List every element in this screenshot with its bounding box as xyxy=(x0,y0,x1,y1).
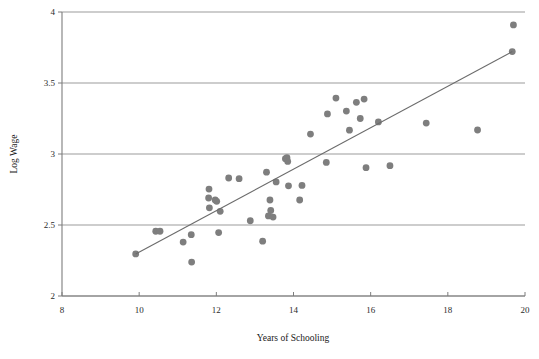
data-point xyxy=(284,158,291,165)
x-axis-title: Years of Schooling xyxy=(257,333,330,343)
data-point xyxy=(357,115,364,122)
y-tick-label: 4 xyxy=(51,7,56,17)
y-axis-title: Log Wage xyxy=(9,135,19,174)
data-point xyxy=(299,182,306,189)
data-points-group xyxy=(132,22,517,266)
data-point xyxy=(323,159,330,166)
data-point xyxy=(343,108,350,115)
data-point xyxy=(509,48,516,55)
x-tick-label: 16 xyxy=(366,305,376,315)
data-point xyxy=(188,231,195,238)
data-point xyxy=(205,195,212,202)
y-tick-label: 2.5 xyxy=(44,220,56,230)
x-tick-label: 14 xyxy=(289,305,299,315)
data-point xyxy=(363,164,370,171)
x-tick-label: 12 xyxy=(212,305,221,315)
y-tick-label: 3.5 xyxy=(44,78,56,88)
y-tick-label: 3 xyxy=(51,149,56,159)
data-point xyxy=(307,131,314,138)
data-point xyxy=(213,198,220,205)
data-point xyxy=(259,238,266,245)
x-tick-label: 10 xyxy=(135,305,145,315)
plot-canvas: 22.533.54 8101214161820 Years of Schooli… xyxy=(0,0,539,359)
data-point xyxy=(346,127,353,134)
data-point xyxy=(353,99,360,106)
y-tick-group: 22.533.54 xyxy=(44,7,62,301)
data-point xyxy=(206,186,213,193)
data-point xyxy=(180,239,187,246)
x-tick-label: 8 xyxy=(60,305,65,315)
scatter-plot-figure: 22.533.54 8101214161820 Years of Schooli… xyxy=(0,0,539,359)
data-point xyxy=(270,214,277,221)
gridlines-group xyxy=(62,12,525,296)
data-point xyxy=(296,197,303,204)
data-point xyxy=(285,182,292,189)
y-tick-label: 2 xyxy=(51,291,56,301)
data-point xyxy=(188,259,195,266)
x-tick-label: 18 xyxy=(443,305,453,315)
regression-line xyxy=(136,52,513,254)
data-point xyxy=(206,204,213,211)
data-point xyxy=(423,120,430,127)
data-point xyxy=(324,111,331,118)
data-point xyxy=(225,175,232,182)
data-point xyxy=(387,162,394,169)
data-point xyxy=(361,96,368,103)
data-point xyxy=(474,127,481,134)
data-point xyxy=(215,229,222,236)
data-point xyxy=(333,95,340,102)
x-tick-label: 20 xyxy=(521,305,531,315)
data-point xyxy=(267,197,274,204)
data-point xyxy=(263,169,270,176)
data-point xyxy=(510,22,517,29)
data-point xyxy=(157,228,164,235)
data-point xyxy=(267,207,274,214)
data-point xyxy=(247,217,254,224)
data-point xyxy=(236,175,243,182)
